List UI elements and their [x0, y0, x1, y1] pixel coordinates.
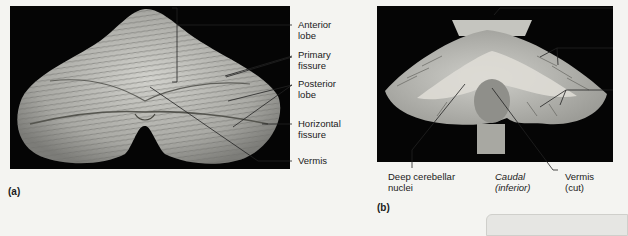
- label-anterior-lobe: Anterior lobe: [298, 20, 331, 41]
- panel-b-tag: (b): [377, 202, 390, 213]
- label-vermis: Vermis: [298, 156, 327, 167]
- partial-card: [486, 214, 628, 236]
- cerebellum-illustration-b: [377, 6, 613, 162]
- cerebellum-illustration-a: [10, 6, 290, 169]
- cerebellum-photo-b: [377, 6, 613, 162]
- label-caudal-inferior: Caudal (inferior): [495, 172, 530, 193]
- cerebellum-photo-a: [10, 6, 290, 169]
- label-vermis-cut: Vermis (cut): [565, 172, 594, 193]
- panel-a-tag: (a): [8, 186, 20, 197]
- label-primary-fissure: Primary fissure: [298, 50, 331, 71]
- label-horizontal-fissure: Horizontal fissure: [298, 119, 341, 140]
- label-deep-cerebellar-nuclei: Deep cerebellar nuclei: [388, 172, 455, 193]
- label-posterior-lobe: Posterior lobe: [298, 79, 336, 100]
